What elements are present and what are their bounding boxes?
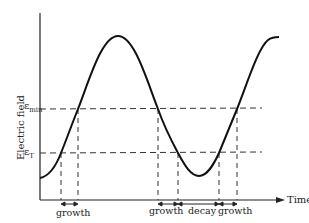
interval-label-growth-2: growth bbox=[149, 205, 183, 216]
electric-field-curve bbox=[40, 36, 279, 178]
epsilon-t-level-line bbox=[40, 152, 262, 153]
epsilon-min-level-line bbox=[40, 108, 262, 109]
interval-label-growth-3: growth bbox=[218, 205, 252, 216]
electric-field-diagram: Electric field Time εmin εT growth growt… bbox=[0, 0, 309, 223]
x-axis-label: Time bbox=[287, 194, 309, 205]
x-axis-arrowhead-icon bbox=[276, 197, 285, 203]
vertical-guide-lines bbox=[61, 109, 237, 200]
interval-label-decay: decay bbox=[188, 205, 217, 216]
interval-label-growth-1: growth bbox=[56, 207, 90, 218]
